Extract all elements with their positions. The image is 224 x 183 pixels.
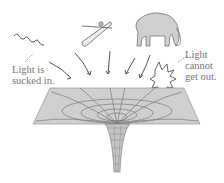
- spacetime-surface: [33, 88, 200, 124]
- label-light-sucked-in: Light is sucked in.: [12, 64, 55, 86]
- label-line: cannot: [185, 60, 217, 71]
- label-light-cannot-escape: Light cannot get out.: [185, 49, 217, 82]
- label-line: Light is: [12, 64, 55, 75]
- label-line: Light: [185, 49, 217, 60]
- wavy-light-ray-icon: [14, 34, 44, 45]
- label-line: get out.: [185, 71, 217, 82]
- incoming-arrows: [49, 51, 150, 79]
- kayak-icon: [82, 22, 112, 46]
- black-hole-diagram: [0, 0, 224, 183]
- label-line: sucked in.: [12, 75, 55, 86]
- elephant-icon: [136, 13, 181, 46]
- dotted-pointer-icon: [25, 54, 33, 62]
